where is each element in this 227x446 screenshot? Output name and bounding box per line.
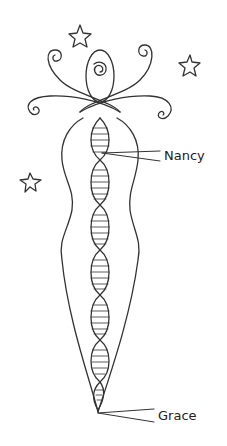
label-grace: Grace (158, 408, 197, 423)
star-icon (69, 25, 91, 47)
head (86, 50, 114, 102)
figure-drawing (0, 0, 227, 446)
star-icon (179, 55, 200, 76)
label-pointer-upper (102, 151, 160, 161)
spiral-curls (28, 45, 171, 119)
label-nancy: Nancy (164, 148, 205, 163)
label-pointer-lower (98, 409, 154, 422)
dna-helix (91, 118, 109, 410)
star-icon (20, 173, 41, 192)
